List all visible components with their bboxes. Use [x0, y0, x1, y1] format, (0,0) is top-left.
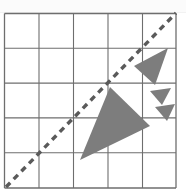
large-triangle [80, 87, 150, 160]
shape-group [80, 48, 175, 160]
figure-canvas [0, 0, 186, 196]
diagonal-dashed-line [6, 13, 176, 187]
geometry-figure [0, 0, 186, 196]
upper-triangle [134, 48, 168, 85]
small-triangle-upper [150, 88, 171, 105]
